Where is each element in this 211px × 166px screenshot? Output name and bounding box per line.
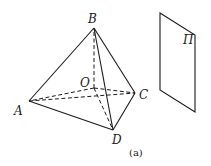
caption: (a) <box>129 147 143 158</box>
tetrahedron-diagram: B A C D O Π (a) <box>0 0 211 166</box>
label-A: A <box>13 104 23 118</box>
plane-pi <box>160 13 195 112</box>
edge-OD <box>94 88 113 130</box>
label-O: O <box>80 76 90 90</box>
edge-OC <box>94 88 135 93</box>
label-C: C <box>139 88 148 102</box>
edge-CD <box>113 93 135 130</box>
label-plane: Π <box>182 33 194 47</box>
label-D: D <box>111 133 122 147</box>
edge-AD <box>29 101 113 130</box>
edge-AC <box>29 93 135 101</box>
label-B: B <box>87 12 97 26</box>
